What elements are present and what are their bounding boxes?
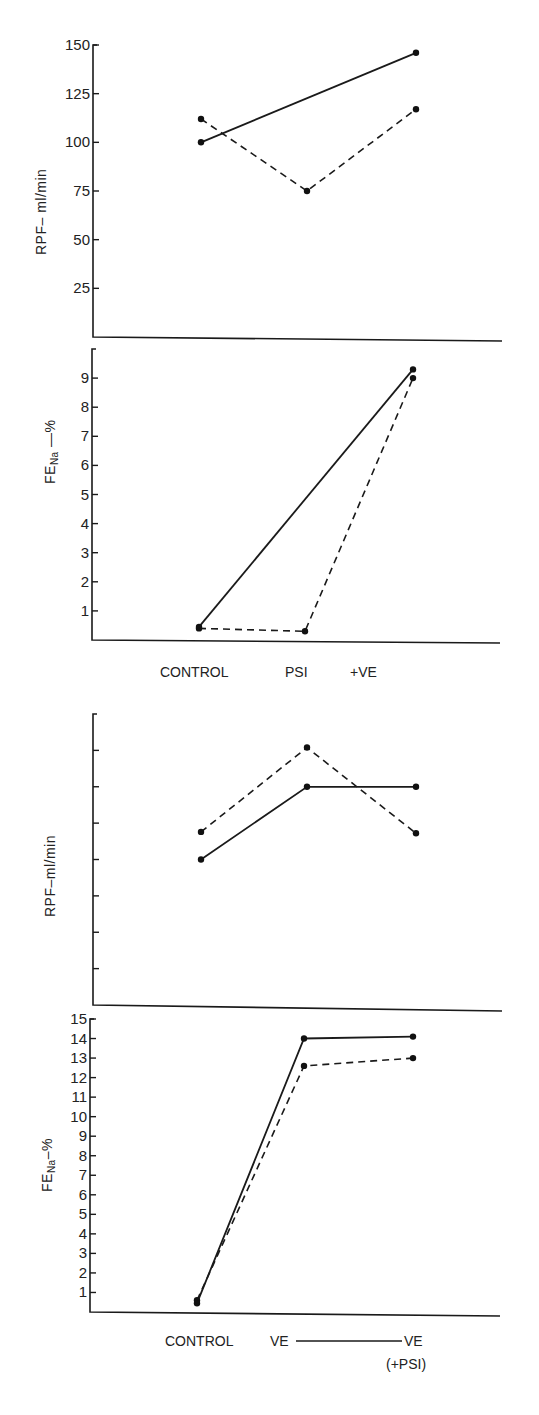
y-tick-label: 50	[73, 231, 90, 248]
y-title-fena-top: FENa —%	[42, 419, 60, 484]
x-label-control-top: CONTROL	[160, 664, 229, 680]
data-point	[302, 628, 308, 634]
series-line-dashed	[201, 748, 416, 834]
y-tick-label: 13	[70, 1049, 87, 1066]
y-tick-label: 125	[65, 85, 90, 102]
axes	[92, 349, 500, 643]
data-point	[410, 1033, 416, 1039]
data-point	[198, 139, 204, 145]
chart-panel-top-fena: 123456789	[81, 349, 500, 643]
y-tick-label: 15	[70, 1010, 87, 1027]
y-tick-label: 3	[81, 544, 89, 561]
series-line-dashed	[199, 378, 413, 631]
y-tick-label: 8	[81, 398, 89, 415]
data-point	[413, 50, 419, 56]
y-title-rpf-top: RPF– ml/min	[33, 169, 49, 255]
data-point	[196, 625, 202, 631]
x-label-ve-psi-bottom: VE	[404, 1333, 423, 1349]
y-tick-label: 6	[79, 1186, 87, 1203]
data-point	[304, 744, 310, 750]
data-point	[413, 106, 419, 112]
data-point	[304, 188, 310, 194]
x-label-psi-top: PSI	[285, 664, 308, 680]
chart-panel-bottom-rpf	[93, 714, 502, 1011]
series-line-solid	[201, 787, 416, 860]
y-tick-label: 5	[81, 486, 89, 503]
x-label-ve-top: +VE	[350, 664, 377, 680]
y-tick-label: 25	[73, 279, 90, 296]
x-label-ve-bottom: VE	[270, 1333, 289, 1349]
x-label-psi-paren: (+PSI)	[386, 1356, 426, 1372]
data-point	[410, 1055, 416, 1061]
y-tick-label: 9	[79, 1127, 87, 1144]
data-point	[301, 1035, 307, 1041]
data-point	[410, 366, 416, 372]
chart-panel-bottom-fena: 123456789101112131415	[70, 1010, 500, 1316]
y-tick-label: 5	[79, 1205, 87, 1222]
y-tick-label: 14	[70, 1030, 87, 1047]
y-tick-label: 6	[81, 456, 89, 473]
series-line-solid	[199, 369, 413, 627]
axes	[93, 45, 502, 341]
y-tick-label: 4	[79, 1225, 87, 1242]
data-point	[413, 830, 419, 836]
y-title-rpf-bottom: RPF–ml/min	[42, 835, 58, 917]
y-tick-label: 12	[70, 1069, 87, 1086]
data-point	[194, 1297, 200, 1303]
data-point	[304, 784, 310, 790]
data-point	[198, 856, 204, 862]
y-tick-label: 75	[73, 182, 90, 199]
data-point	[301, 1063, 307, 1069]
y-tick-label: 100	[65, 133, 90, 150]
series-line-solid	[201, 53, 416, 143]
y-tick-label: 11	[71, 1088, 87, 1105]
y-tick-label: 4	[81, 515, 89, 532]
y-title-fena-bottom: FENa–%	[39, 1138, 57, 1192]
chart-panel-top-rpf: 255075100125150	[65, 36, 502, 341]
series-line-dashed	[197, 1058, 413, 1300]
y-tick-label: 2	[81, 573, 89, 590]
y-tick-label: 1	[79, 1283, 87, 1300]
y-tick-label: 2	[79, 1264, 87, 1281]
data-point	[198, 829, 204, 835]
y-tick-label: 8	[79, 1147, 87, 1164]
y-tick-label: 9	[81, 369, 89, 386]
series-line-dashed	[201, 109, 416, 191]
y-tick-label: 10	[70, 1108, 87, 1125]
series-line-solid	[197, 1037, 413, 1304]
figure-canvas: 2550751001251501234567891234567891011121…	[0, 0, 539, 1415]
y-tick-label: 7	[79, 1166, 87, 1183]
data-point	[413, 784, 419, 790]
data-point	[198, 116, 204, 122]
y-tick-label: 3	[79, 1244, 87, 1261]
y-tick-label: 1	[81, 602, 89, 619]
y-tick-label: 150	[65, 36, 90, 53]
y-tick-label: 7	[81, 427, 89, 444]
axes	[93, 714, 502, 1011]
x-label-control-bottom: CONTROL	[165, 1333, 234, 1349]
chart-panels: 2550751001251501234567891234567891011121…	[65, 36, 502, 1316]
axes	[90, 1019, 500, 1316]
data-point	[410, 375, 416, 381]
